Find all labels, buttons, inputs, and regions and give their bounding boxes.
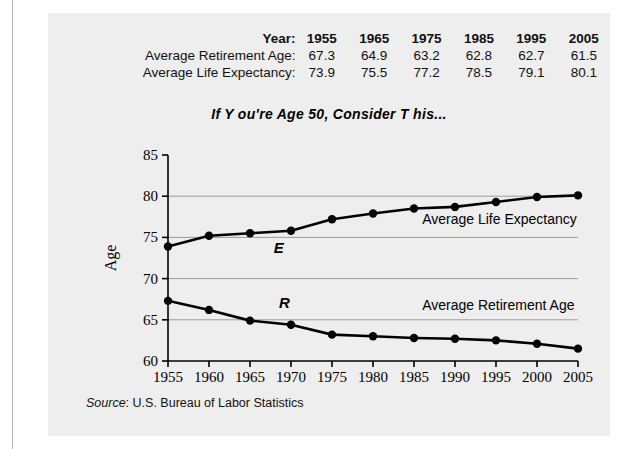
x-tick-label-1965: 1965 (235, 369, 265, 385)
retirement-value-1: 64.9 (348, 47, 400, 64)
data-point (410, 334, 418, 342)
y-axis-ticks: 606570758085 (143, 147, 168, 369)
table-year-2: 1975 (400, 30, 452, 47)
x-tick-label-1980: 1980 (358, 369, 388, 385)
x-tick-label-1975: 1975 (317, 369, 347, 385)
data-point (164, 242, 172, 250)
y-tick-label-80: 80 (143, 188, 158, 204)
table-year-3: 1985 (453, 30, 505, 47)
table-row-label-life: Average Life Expectancy: (48, 64, 296, 81)
y-tick-label-60: 60 (143, 353, 158, 369)
x-tick-label-2000: 2000 (522, 369, 552, 385)
y-tick-label-65: 65 (143, 312, 158, 328)
source-word: Source (86, 396, 126, 410)
chart-annotations: Average Life ExpectancyAverage Retiremen… (274, 211, 577, 313)
y-axis-title: Age (102, 245, 120, 272)
figure-panel: Year: 1955 1965 1975 1985 1995 2005 Aver… (48, 13, 610, 436)
data-point (533, 339, 541, 347)
retirement-value-5: 61.5 (558, 47, 610, 64)
data-table: Year: 1955 1965 1975 1985 1995 2005 Aver… (48, 30, 610, 81)
data-point (574, 344, 582, 352)
data-point (287, 321, 295, 329)
table-year-5: 2005 (558, 30, 610, 47)
page-edge-rule (12, 0, 13, 449)
table-row-life-expectancy: Average Life Expectancy: 73.9 75.5 77.2 … (48, 64, 610, 81)
x-tick-label-1985: 1985 (399, 369, 429, 385)
table-row-years: Year: 1955 1965 1975 1985 1995 2005 (48, 30, 610, 47)
data-point (451, 203, 459, 211)
life-value-1: 75.5 (348, 64, 400, 81)
table-row-label-retirement: Average Retirement Age: (48, 47, 296, 64)
data-point (246, 316, 254, 324)
chart-title: If Y ou're Age 50, Consider T his... (48, 106, 610, 122)
life-value-3: 78.5 (453, 64, 505, 81)
chart-svg: 606570758085 195519601965197019751980198… (48, 130, 610, 390)
x-tick-label-1995: 1995 (481, 369, 511, 385)
line-chart: 606570758085 195519601965197019751980198… (48, 130, 610, 390)
life-value-5: 80.1 (558, 64, 610, 81)
data-point (369, 332, 377, 340)
x-tick-label-2005: 2005 (563, 369, 593, 385)
source-note: Source: U.S. Bureau of Labor Statistics (86, 396, 303, 410)
table-year-1: 1965 (348, 30, 400, 47)
table-year-4: 1995 (505, 30, 557, 47)
data-point (492, 198, 500, 206)
data-point (410, 204, 418, 212)
y-tick-label-85: 85 (143, 147, 158, 163)
x-tick-label-1960: 1960 (194, 369, 224, 385)
data-point (574, 191, 582, 199)
data-point (369, 209, 377, 217)
annotation-letter-r: R (279, 294, 290, 311)
data-point (451, 335, 459, 343)
data-point (246, 229, 254, 237)
series-label-retirement-age: Average Retirement Age (422, 297, 574, 313)
series-label-life-expectancy: Average Life Expectancy (422, 211, 577, 227)
retirement-value-4: 62.7 (505, 47, 557, 64)
x-tick-label-1955: 1955 (153, 369, 183, 385)
data-point (164, 297, 172, 305)
life-value-2: 77.2 (400, 64, 452, 81)
chart-axes (168, 155, 578, 361)
y-tick-label-75: 75 (143, 229, 158, 245)
data-point (328, 215, 336, 223)
x-tick-label-1970: 1970 (276, 369, 306, 385)
retirement-value-3: 62.8 (453, 47, 505, 64)
retirement-value-0: 67.3 (296, 47, 348, 64)
source-text: : U.S. Bureau of Labor Statistics (126, 396, 304, 410)
data-point (492, 336, 500, 344)
table-header-label: Year: (48, 30, 296, 47)
life-value-0: 73.9 (296, 64, 348, 81)
life-value-4: 79.1 (505, 64, 557, 81)
data-point (287, 227, 295, 235)
table-year-0: 1955 (296, 30, 348, 47)
data-point (205, 232, 213, 240)
y-tick-label-70: 70 (143, 271, 158, 287)
retirement-value-2: 63.2 (400, 47, 452, 64)
annotation-letter-e: E (274, 239, 285, 256)
data-point (328, 330, 336, 338)
data-point (205, 306, 213, 314)
data-point (533, 193, 541, 201)
x-tick-label-1990: 1990 (440, 369, 470, 385)
table-row-retirement-age: Average Retirement Age: 67.3 64.9 63.2 6… (48, 47, 610, 64)
x-axis-ticks: 1955196019651970197519801985199019952000… (153, 361, 593, 385)
